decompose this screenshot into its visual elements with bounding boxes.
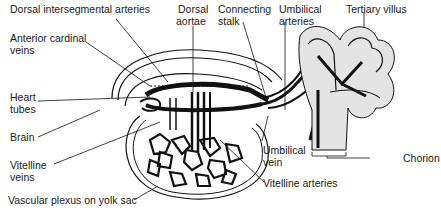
label-dorsal-intersegmental-arteries: Dorsal intersegmental arteries <box>10 3 150 15</box>
label-vitelline-veins-2: veins <box>10 171 35 183</box>
embryo-body <box>140 84 268 152</box>
label-heart-tubes-1: Heart <box>10 91 36 103</box>
label-umbilical-arteries-1: Umbilical <box>279 3 322 15</box>
label-umbilical-vein-2: vein <box>263 156 282 168</box>
label-vitelline-veins-1: Vitelline <box>10 159 47 171</box>
label-connecting-stalk-2: stalk <box>218 15 240 27</box>
label-anterior-cardinal-veins-2: veins <box>10 44 35 56</box>
label-heart-tubes-2: tubes <box>10 103 36 115</box>
label-chorion: Chorion <box>403 152 440 164</box>
label-vascular-plexus: Vascular plexus on yolk sac <box>8 194 137 206</box>
label-tertiary-villus: Tertiary villus <box>346 3 407 15</box>
label-dorsal-aortae-2: aortae <box>176 15 206 27</box>
label-umbilical-arteries-2: arteries <box>279 15 314 27</box>
label-brain: Brain <box>10 131 35 143</box>
tertiary-villus <box>299 26 394 150</box>
label-dorsal-aortae-1: Dorsal <box>178 3 208 15</box>
label-connecting-stalk-1: Connecting <box>218 3 271 15</box>
label-vitelline-arteries: Vitelline arteries <box>263 177 338 189</box>
label-anterior-cardinal-veins-1: Anterior cardinal <box>10 32 86 44</box>
label-umbilical-vein-1: Umbilical <box>263 144 306 156</box>
